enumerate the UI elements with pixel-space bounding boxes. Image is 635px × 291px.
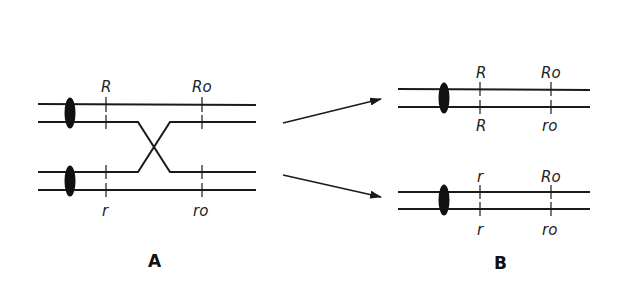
centromere-icon: [65, 166, 76, 197]
locus-label-ro: ro: [193, 202, 208, 220]
locus-label: R: [476, 117, 486, 135]
locus-label: Ro: [541, 64, 561, 82]
panel-b-chromosome-2: [398, 185, 590, 216]
locus-label: ro: [542, 117, 557, 135]
centromere-icon: [439, 185, 450, 216]
centromere-icon: [439, 83, 450, 114]
arrow-down-icon: [283, 175, 381, 197]
locus-label: ro: [542, 221, 557, 239]
locus-label-R: R: [101, 78, 111, 96]
locus-label: r: [477, 221, 484, 239]
chromatid-3: [38, 122, 256, 172]
locus-label-Ro: Ro: [192, 78, 212, 96]
panel-b-chromosome-1: [398, 82, 590, 114]
panel-label-b: B: [494, 253, 507, 273]
locus-label: r: [477, 168, 484, 186]
locus-label: Ro: [541, 168, 561, 186]
arrow-up-icon: [283, 99, 381, 123]
panel-label-a: A: [148, 251, 162, 271]
centromere-icon: [65, 98, 76, 129]
locus-label: R: [476, 64, 486, 82]
chromatid-2: [38, 122, 256, 172]
locus-label-r: r: [102, 202, 109, 220]
